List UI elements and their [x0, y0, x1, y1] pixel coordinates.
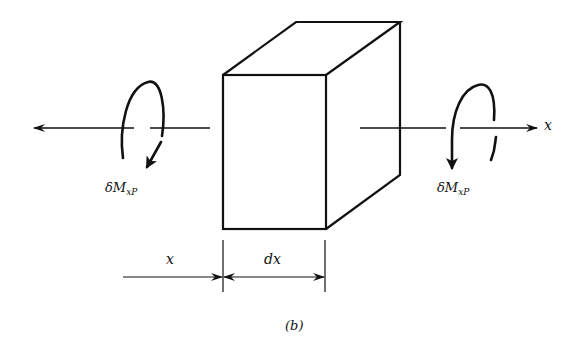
- left-moment-arrow-icon: [122, 82, 164, 167]
- right-moment-arrow-icon: [452, 84, 496, 168]
- element-box: [223, 22, 400, 229]
- right-moment-main: δM: [437, 180, 458, 195]
- left-moment-sub: xP: [126, 187, 137, 197]
- right-moment-label: δMxP: [437, 180, 469, 197]
- dimension-lines: [123, 240, 325, 292]
- dim-dx-label: dx: [264, 251, 281, 267]
- left-moment-main: δM: [105, 180, 126, 195]
- figure-caption: (b): [285, 318, 303, 333]
- box-right-face: [326, 22, 400, 229]
- x-axis-label: x: [544, 117, 552, 133]
- box-front-face: [223, 75, 326, 229]
- dim-x-label: x: [166, 251, 174, 267]
- diagram-canvas: [0, 0, 579, 359]
- box-top-face: [223, 22, 400, 75]
- right-moment-sub: xP: [458, 187, 469, 197]
- left-moment-label: δMxP: [105, 180, 137, 197]
